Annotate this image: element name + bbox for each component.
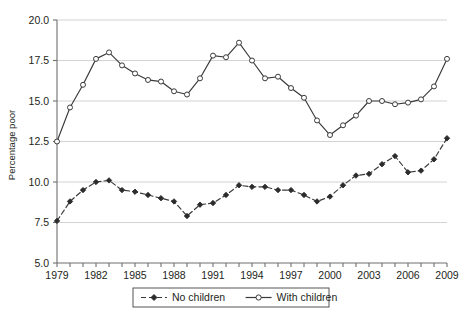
legend-label: With children bbox=[277, 291, 338, 303]
data-point-marker-circle bbox=[302, 95, 307, 100]
data-point-marker-circle bbox=[250, 58, 255, 63]
data-point-marker-circle bbox=[133, 71, 138, 76]
data-point-marker-circle bbox=[120, 63, 125, 68]
data-point-marker-circle bbox=[328, 133, 333, 138]
x-tick-label: 2009 bbox=[435, 269, 459, 281]
x-tick-label: 1982 bbox=[84, 269, 108, 281]
data-point-marker-circle bbox=[198, 76, 203, 81]
y-axis-title: Percentage poor bbox=[6, 110, 17, 180]
y-axis-title-label: Percentage poor bbox=[6, 110, 17, 180]
chart-legend: No childrenWith children bbox=[133, 288, 337, 307]
x-tick-label: 1997 bbox=[279, 269, 303, 281]
x-tick-label: 2003 bbox=[357, 269, 381, 281]
x-tick-label: 1988 bbox=[162, 269, 186, 281]
y-tick-label: 12.5 bbox=[29, 135, 50, 147]
data-point-marker-circle bbox=[81, 82, 86, 87]
y-tick-label: 5.0 bbox=[34, 257, 49, 269]
data-point-marker-circle bbox=[367, 99, 372, 104]
chart-background bbox=[0, 0, 460, 313]
x-tick-label: 1991 bbox=[201, 269, 225, 281]
data-point-marker-circle bbox=[159, 79, 164, 84]
data-point-marker-circle bbox=[289, 86, 294, 91]
x-tick-label: 1994 bbox=[240, 269, 264, 281]
percentage-poor-line-chart: Percentage poor 5.07.510.012.515.017.520… bbox=[0, 0, 460, 313]
data-point-marker-circle bbox=[432, 84, 437, 89]
x-tick-label: 2006 bbox=[396, 269, 420, 281]
data-point-marker-circle bbox=[406, 100, 411, 105]
legend-marker-circle-icon bbox=[256, 295, 261, 300]
y-tick-label: 7.5 bbox=[34, 216, 49, 228]
data-point-marker-circle bbox=[419, 97, 424, 102]
x-tick-label: 1985 bbox=[123, 269, 147, 281]
data-point-marker-circle bbox=[146, 77, 151, 82]
data-point-marker-circle bbox=[68, 105, 73, 110]
data-point-marker-circle bbox=[354, 113, 359, 118]
data-point-marker-circle bbox=[393, 102, 398, 107]
legend-label: No children bbox=[172, 291, 225, 303]
data-point-marker-circle bbox=[237, 40, 242, 45]
data-point-marker-circle bbox=[263, 76, 268, 81]
data-point-marker-circle bbox=[211, 53, 216, 58]
data-point-marker-circle bbox=[315, 118, 320, 123]
data-point-marker-circle bbox=[172, 89, 177, 94]
data-point-marker-circle bbox=[224, 55, 229, 60]
data-point-marker-circle bbox=[380, 99, 385, 104]
y-tick-label: 15.0 bbox=[29, 95, 50, 107]
y-tick-label: 10.0 bbox=[29, 176, 50, 188]
y-tick-label: 20.0 bbox=[29, 14, 50, 26]
data-point-marker-circle bbox=[107, 50, 112, 55]
data-point-marker-circle bbox=[185, 92, 190, 97]
y-tick-label: 17.5 bbox=[29, 54, 50, 66]
data-point-marker-circle bbox=[94, 56, 99, 61]
data-point-marker-circle bbox=[276, 74, 281, 79]
data-point-marker-circle bbox=[445, 56, 450, 61]
data-point-marker-circle bbox=[55, 139, 60, 144]
chart-container: Percentage poor 5.07.510.012.515.017.520… bbox=[0, 0, 460, 313]
data-point-marker-circle bbox=[341, 123, 346, 128]
x-tick-label: 1979 bbox=[45, 269, 69, 281]
x-tick-label: 2000 bbox=[318, 269, 342, 281]
